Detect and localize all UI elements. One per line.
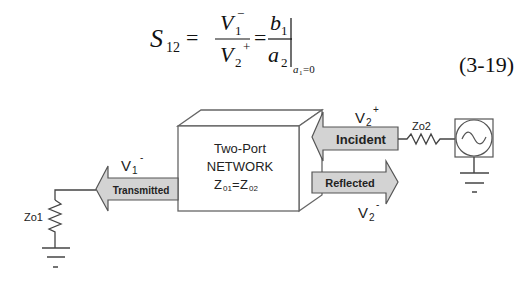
reflected-arrow: Reflected [312,161,398,204]
left-wire [55,190,96,200]
frac1-den-sup: + [243,39,250,54]
ground-icon [42,248,70,267]
v2-minus-sub: 2 [369,212,375,223]
v2-plus-label: V 2 + [355,104,379,128]
v1-minus-base: V [121,157,131,174]
z01-base: Z [214,177,222,192]
v2-minus-base: V [358,204,368,221]
equation-number: (3-19) [459,52,514,77]
eq-lhs-sub: 12 [166,40,180,55]
zo2-label: Zo2 [412,120,431,132]
frac1-den-sub: 2 [235,55,242,70]
v2-minus-label: V 2 - [358,199,379,223]
eq-equals-2: = [254,25,266,50]
ac-source-icon [455,119,493,157]
network-line1: Two-Port [214,141,266,156]
frac2-den: a [268,42,279,67]
z-equals: = [232,177,240,192]
eq-lhs: S [150,24,163,53]
resistor-icon [49,200,61,248]
two-port-diagram: S 12 = V 1 − V 2 + = b 1 a 2 a 1 =0 (3-1… [0,0,521,285]
v2-plus-sub: 2 [366,117,372,128]
z02-sub: 02 [249,184,258,193]
frac2-den-sub: 2 [281,55,288,70]
frac2-num-sub: 1 [281,23,288,38]
zo1-label: Zo1 [24,211,43,223]
v2-plus-sup: + [373,104,379,115]
v1-minus-sub: 1 [132,165,138,176]
condition-rest: =0 [303,63,315,75]
ground-icon [460,173,489,192]
s12-equation: S 12 = V 1 − V 2 + = b 1 a 2 a 1 =0 (3-1… [150,6,514,77]
v1-minus-sup: - [140,152,143,163]
incident-label: Incident [336,132,387,147]
reflected-label: Reflected [325,177,375,189]
frac1-num: V [220,10,236,35]
frac1-den: V [220,42,236,67]
frac1-num-sup: − [237,6,244,21]
load-zo1: Zo1 [24,190,96,267]
box-top-face [178,110,322,126]
v1-minus-label: V 1 - [121,152,143,176]
transmitted-label: Transmitted [113,185,170,196]
network-box: Two-Port NETWORK Z 01 = Z 02 [178,110,322,211]
v2-minus-sup: - [376,199,379,210]
frac1-num-sub: 1 [235,23,242,38]
resistor-icon [398,134,455,144]
source-zo2: Zo2 [398,119,493,192]
v2-plus-base: V [355,109,365,126]
eq-equals-1: = [186,25,198,50]
z02-base: Z [240,177,248,192]
network-line2: NETWORK [207,159,274,174]
frac2-num: b [270,10,281,35]
